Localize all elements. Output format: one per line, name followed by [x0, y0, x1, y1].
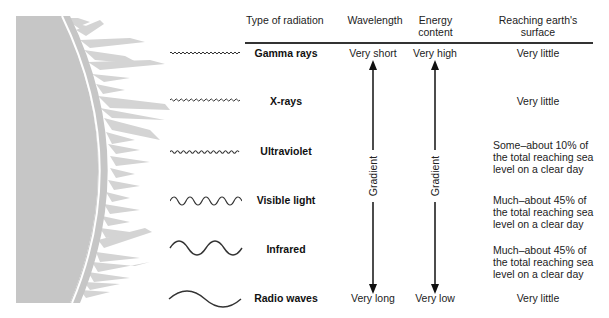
- reaching-line: Very little: [488, 292, 588, 304]
- energy-top-label: Very high: [400, 47, 470, 59]
- reaching-line: level on a clear day: [493, 163, 608, 175]
- short-wave-icon: [170, 96, 242, 104]
- arrow-down-icon: [369, 284, 377, 294]
- reaching-x-rays: Very little: [488, 95, 588, 107]
- reaching-infrared: Much–about 45% of the total reaching sea…: [493, 244, 608, 280]
- energy-gradient-label: Gradient: [429, 150, 441, 202]
- header-energy-line2: content: [408, 26, 463, 38]
- reaching-line: Some–about 10% of: [493, 139, 608, 151]
- reaching-line: Much–about 45% of: [493, 244, 608, 256]
- sun-illustration: [0, 0, 200, 318]
- reaching-radio-waves: Very little: [488, 292, 588, 304]
- infrared-wave-icon: [169, 240, 243, 256]
- reaching-line: the total reaching sea: [493, 206, 608, 218]
- header-reaching-line2: surface: [488, 26, 588, 38]
- arrow-down-icon: [431, 284, 439, 294]
- radiation-type-radio-waves: Radio waves: [246, 292, 326, 304]
- visible-wave-icon: [170, 195, 242, 207]
- header-reaching-line1: Reaching earth's: [488, 14, 588, 26]
- header-reaching-surface: Reaching earth's surface: [488, 14, 588, 38]
- reaching-line: the total reaching sea: [493, 256, 608, 268]
- reaching-line: Very little: [488, 47, 588, 59]
- header-energy-content: Energy content: [408, 14, 463, 38]
- radiation-type-visible-light: Visible light: [246, 194, 326, 206]
- header-wavelength: Wavelength: [340, 14, 410, 26]
- radiation-type-x-rays: X-rays: [246, 95, 326, 107]
- reaching-line: level on a clear day: [493, 218, 608, 230]
- reaching-visible-light: Much–about 45% of the total reaching sea…: [493, 194, 608, 230]
- ultraviolet-wave-icon: [170, 148, 242, 156]
- reaching-line: Very little: [488, 95, 588, 107]
- reaching-ultraviolet: Some–about 10% of the total reaching sea…: [493, 139, 608, 175]
- wavelength-gradient-label: Gradient: [367, 150, 379, 202]
- radiation-type-infrared: Infrared: [246, 243, 326, 255]
- arrow-up-icon: [431, 60, 439, 70]
- radiation-type-gamma-rays: Gamma rays: [246, 47, 326, 59]
- reaching-line: level on a clear day: [493, 268, 608, 280]
- wavelength-top-label: Very short: [338, 47, 408, 59]
- radiation-type-ultraviolet: Ultraviolet: [246, 145, 326, 157]
- radio-wave-icon: [168, 290, 244, 308]
- header-divider: [245, 42, 593, 44]
- reaching-line: Much–about 45% of: [493, 194, 608, 206]
- reaching-gamma-rays: Very little: [488, 47, 588, 59]
- arrow-up-icon: [369, 60, 377, 70]
- header-type-of-radiation: Type of radiation: [246, 14, 346, 26]
- header-energy-line1: Energy: [408, 14, 463, 26]
- reaching-line: the total reaching sea: [493, 151, 608, 163]
- very-short-wave-icon: [170, 49, 242, 57]
